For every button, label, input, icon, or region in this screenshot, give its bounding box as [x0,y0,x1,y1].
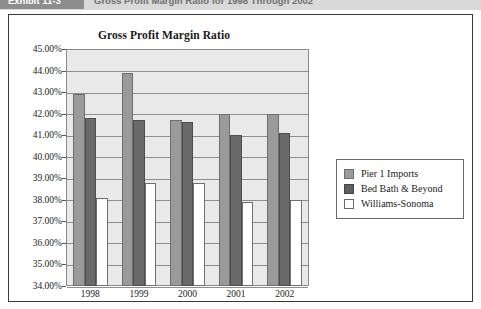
gridline [67,287,308,288]
bar [230,135,242,286]
y-axis-tick-label: 45.00% [14,44,62,54]
legend-item-label: Pier 1 Imports [361,168,418,179]
bar [133,120,145,286]
bar [193,183,205,286]
legend-item: Pier 1 Imports [344,166,456,181]
exhibit-title: Gross Profit Margin Ratio for 1998 Throu… [94,0,313,9]
y-axis-tick-mark [62,286,66,287]
legend-item-label: Williams-Sonoma [361,198,433,209]
y-axis-tick-label: 44.00% [14,66,62,76]
bar-group [212,49,261,286]
y-axis-tick-label: 41.00% [14,130,62,140]
exhibit-header: Exhibit 11-3 Gross Profit Margin Ratio f… [0,0,481,10]
legend-swatch-icon [344,169,354,179]
chart-legend: Pier 1 ImportsBed Bath & BeyondWilliams-… [336,159,464,219]
y-axis-tick-label: 37.00% [14,216,62,226]
y-axis-tick-label: 39.00% [14,173,62,183]
bar-group [115,49,164,286]
bar [145,183,157,286]
x-axis-tick-label: 1999 [115,289,164,299]
x-axis-tick-label: 2002 [260,289,309,299]
bar [122,73,134,286]
bar [96,198,108,286]
bar [219,114,231,286]
y-axis-tick-label: 43.00% [14,87,62,97]
legend-item: Williams-Sonoma [344,196,456,211]
y-axis-tick-label: 38.00% [14,195,62,205]
bar [290,200,302,286]
legend-item: Bed Bath & Beyond [344,181,456,196]
y-axis-tick-label: 42.00% [14,109,62,119]
x-axis-tick-label: 2001 [212,289,261,299]
bar [85,118,97,286]
y-axis-tick-label: 36.00% [14,238,62,248]
legend-swatch-icon [344,184,354,194]
chart-title: Gross Profit Margin Ratio [9,29,319,41]
bar-group [163,49,212,286]
y-axis-tick-label: 35.00% [14,259,62,269]
legend-item-label: Bed Bath & Beyond [361,183,442,194]
bar-group [260,49,309,286]
bar-group [66,49,115,286]
bar [182,122,194,286]
figure-frame: Gross Profit Margin Ratio 45.00%44.00%43… [8,14,473,302]
exhibit-number-label: Exhibit 11-3 [8,0,61,9]
legend-swatch-icon [344,199,354,209]
bar [267,114,279,286]
y-axis-tick-label: 34.00% [14,281,62,291]
y-axis-tick-label: 40.00% [14,152,62,162]
x-axis-tick-label: 2000 [163,289,212,299]
bar [170,120,182,286]
bar [73,94,85,286]
bar [279,133,291,286]
bar [242,202,254,286]
x-axis-tick-label: 1998 [66,289,115,299]
